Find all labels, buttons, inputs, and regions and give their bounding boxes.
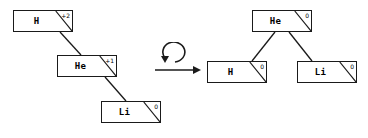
node-label: He [253,11,311,31]
node-label: Li [102,102,160,122]
tree-node-li[interactable]: Li0 [101,101,161,123]
tree-node-h[interactable]: H0 [207,61,267,83]
node-balance-factor: +1 [105,57,114,64]
node-balance-factor: +2 [61,12,70,19]
tree-node-he[interactable]: He0 [252,10,312,32]
node-balance-factor: 0 [154,103,158,110]
tree-edge [105,77,126,101]
tree-edge [60,32,81,55]
transform-arrowhead [193,66,201,74]
tree-node-he[interactable]: He+1 [57,55,117,77]
node-label: H [208,62,266,82]
node-label: Li [298,62,356,82]
tree-rotation-figure: H+2He+1Li0He0H0Li0 [0,0,368,138]
tree-node-li[interactable]: Li0 [297,61,357,83]
tree-edge [252,32,275,61]
rotation-symbol [155,42,203,78]
rotate-arrowhead-icon [161,56,169,63]
node-balance-factor: 0 [350,63,354,70]
node-balance-factor: 0 [305,12,309,19]
tree-node-h[interactable]: H+2 [13,10,73,32]
node-balance-factor: 0 [260,63,264,70]
tree-edge [289,32,312,61]
